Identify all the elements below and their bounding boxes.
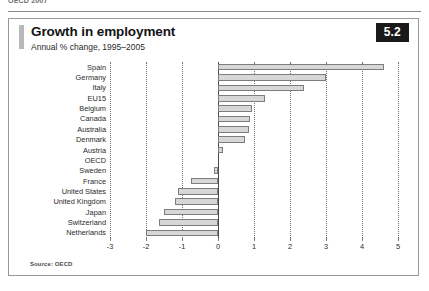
page-header-text: OECD 2007: [8, 0, 308, 8]
gridline: [326, 62, 327, 238]
category-label: Denmark: [76, 135, 106, 144]
bar: [191, 178, 218, 185]
x-axis-tick-label: -3: [107, 242, 114, 251]
plot-area: [110, 62, 398, 238]
page-rule-divider: [8, 11, 421, 12]
x-axis-tick: [290, 238, 291, 241]
x-axis-tick: [326, 238, 327, 241]
bar: [218, 126, 249, 133]
x-axis-tick-label: -2: [143, 242, 150, 251]
category-label: Australia: [77, 125, 106, 134]
bar: [218, 74, 326, 81]
category-label: Spain: [87, 63, 106, 72]
source-note: Source: OECD: [30, 261, 73, 267]
x-axis-tick-label: 5: [396, 242, 400, 251]
figure-panel: Growth in employment Annual % change, 19…: [8, 18, 419, 276]
bar: [218, 105, 252, 112]
category-label: Italy: [92, 83, 106, 92]
bar: [175, 198, 218, 205]
x-axis-tick: [254, 238, 255, 241]
gridline: [110, 62, 111, 238]
category-label: United States: [62, 187, 106, 196]
figure-number-badge: 5.2: [376, 23, 409, 42]
bar: [218, 136, 245, 143]
category-label: France: [83, 177, 106, 186]
bar: [218, 95, 265, 102]
category-label: Austria: [83, 146, 106, 155]
category-axis-labels: SpainGermanyItalyEU15BelgiumCanadaAustra…: [22, 62, 110, 238]
bar: [146, 230, 218, 237]
gridline: [398, 62, 399, 238]
category-label: Japan: [86, 208, 106, 217]
x-axis-tick: [110, 238, 111, 241]
x-axis-tick: [218, 238, 219, 241]
x-axis-tick: [398, 238, 399, 241]
bar: [218, 85, 304, 92]
x-axis-tick: [362, 238, 363, 241]
x-axis-tick: [182, 238, 183, 241]
category-label: Belgium: [79, 104, 106, 113]
gridline: [362, 62, 363, 238]
x-axis-tick-label: 0: [216, 242, 220, 251]
category-label: Canada: [80, 114, 106, 123]
category-label: Switzerland: [68, 218, 106, 227]
title-accent-bar: [19, 25, 24, 49]
x-axis-tick: [146, 238, 147, 241]
bar: [159, 219, 218, 226]
category-label: OECD: [85, 156, 106, 165]
category-label: Germany: [76, 73, 106, 82]
category-label: Sweden: [79, 166, 106, 175]
x-axis-tick-label: 4: [360, 242, 364, 251]
bar: [214, 167, 218, 174]
figure-subtitle: Annual % change, 1995–2005: [31, 42, 145, 52]
category-label: United Kingdom: [53, 197, 106, 206]
category-label: EU15: [88, 94, 107, 103]
bar: [178, 188, 218, 195]
bar: [218, 147, 223, 154]
bar: [218, 64, 384, 71]
x-axis-tick-label: 1: [252, 242, 256, 251]
bar-chart: SpainGermanyItalyEU15BelgiumCanadaAustra…: [22, 62, 407, 262]
x-axis-tick-label: 2: [288, 242, 292, 251]
x-axis-tick-label: -1: [179, 242, 186, 251]
bar: [164, 209, 218, 216]
gridline: [146, 62, 147, 238]
category-label: Netherlands: [66, 228, 106, 237]
x-axis-tick-label: 3: [324, 242, 328, 251]
page-title: Growth in employment: [31, 24, 175, 39]
page-header-label: OECD 2007: [8, 0, 308, 5]
bar: [218, 116, 250, 123]
